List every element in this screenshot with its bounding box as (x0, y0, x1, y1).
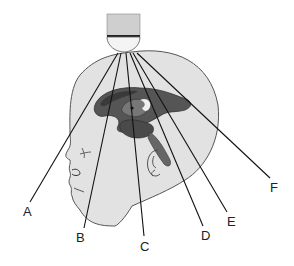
label-e: E (227, 215, 236, 228)
label-c: C (140, 240, 149, 253)
infant-head (66, 51, 219, 226)
ultrasound-diagram (0, 0, 294, 266)
probe-body (107, 14, 140, 36)
label-b: B (76, 231, 85, 244)
label-f: F (270, 181, 278, 194)
label-d: D (201, 229, 210, 242)
label-a: A (23, 205, 32, 218)
probe-head (107, 37, 140, 52)
